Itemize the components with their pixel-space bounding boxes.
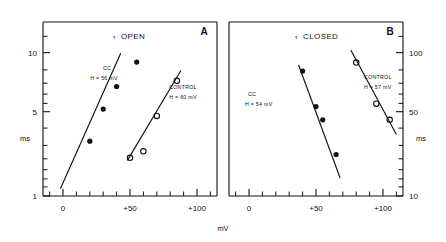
panel-a-ytick-10: 10 [28,49,37,58]
panel-b: 100 50 10 ms [229,22,426,213]
panel-a-cc-label: CC [103,65,111,71]
panel-b-x-major-ticks [249,189,383,196]
data-point [141,149,146,154]
panel-b-ytick-50: 50 [409,108,418,117]
panel-b-cc-points [300,69,339,158]
data-point [114,84,119,89]
panel-a-cc-voltage: H = 56 mV [90,75,118,81]
panel-b-control-label: CONTROL [364,74,392,80]
panel-a-ytick-5: 5 [33,108,38,117]
panel-b-ytick-10: 10 [409,192,418,201]
panel-a-x-major-ticks [63,189,197,196]
panel-a: 10 5 1 ms [20,22,217,213]
panel-b-title: CLOSED [303,32,338,41]
panel-a-letter: A [200,26,207,37]
panel-b-xtick-100: +100 [374,204,393,213]
panel-a-ytick-1: 1 [33,192,38,201]
tau-voltage-plot: 10 5 1 ms [0,0,446,242]
x-axis-title: mV [217,224,228,233]
data-point [87,139,92,144]
panel-b-xtick-50: +50 [309,204,323,213]
panel-a-control-label: CONTROL [169,84,197,90]
data-point [320,117,325,122]
panel-b-cc-label: CC [248,91,256,97]
panel-a-xtick-50: +50 [123,204,137,213]
data-point [134,60,139,65]
panel-b-ytick-100: 100 [409,49,423,58]
panel-a-xtick-0: 0 [61,204,66,213]
panel-b-cc-fit-line [299,65,341,178]
panel-b-control-fit-line [351,50,397,135]
panel-b-letter: B [386,26,393,37]
panel-b-y-major-ticks [396,53,403,196]
data-point [154,113,159,118]
panel-a-y-major-ticks [43,53,50,196]
panel-b-control-voltage: H = 57 mV [364,84,392,90]
panel-b-cc-voltage: H = 54 mV [245,101,273,107]
panel-a-tau-symbol: τ [113,34,116,40]
data-point [101,107,106,112]
panel-a-cc-points [87,60,139,144]
data-point [300,69,305,74]
data-point [313,104,318,109]
panel-a-cc-fit-line [60,53,120,188]
panel-b-y-axis-title: ms [416,134,426,143]
data-point [334,152,339,157]
figure-container: 10 5 1 ms [0,0,446,242]
panel-a-xtick-100: +100 [188,204,207,213]
panel-a-control-voltage: H = 60 mV [169,94,197,100]
panel-b-xtick-0: 0 [247,204,252,213]
data-point [374,101,379,106]
panel-a-title: OPEN [121,32,145,41]
panel-a-y-axis-title: ms [20,134,30,143]
panel-b-tau-symbol: τ [295,34,298,40]
